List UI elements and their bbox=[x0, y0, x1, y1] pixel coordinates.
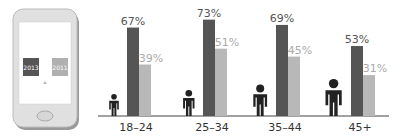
bar-2013 bbox=[203, 20, 215, 116]
value-label-2013: 69% bbox=[270, 12, 294, 25]
person-icon bbox=[253, 84, 267, 116]
bar-2011 bbox=[215, 49, 227, 116]
person-icon bbox=[183, 90, 194, 116]
value-label-2013: 53% bbox=[345, 33, 369, 46]
value-label-2013: 67% bbox=[121, 15, 145, 28]
category-group: 53%31%45+ bbox=[326, 33, 388, 134]
category-label: 35–44 bbox=[268, 121, 302, 134]
bar-2013 bbox=[276, 25, 288, 116]
value-label-2011: 51% bbox=[215, 36, 239, 49]
person-icon bbox=[326, 79, 342, 116]
category-label: 25–34 bbox=[195, 121, 229, 134]
bar-2013 bbox=[351, 46, 363, 116]
bar-chart: 67%39%18–2473%51%25–3469%45%35–4453%31%4… bbox=[0, 0, 401, 138]
value-label-2013: 73% bbox=[197, 7, 221, 20]
value-label-2011: 45% bbox=[288, 44, 312, 57]
bar-2011 bbox=[363, 75, 375, 116]
category-group: 73%51%25–34 bbox=[183, 7, 239, 134]
value-label-2011: 31% bbox=[363, 62, 387, 75]
bar-2011 bbox=[139, 65, 151, 116]
category-label: 18–24 bbox=[119, 121, 153, 134]
category-label: 45+ bbox=[348, 121, 371, 134]
bar-2013 bbox=[127, 28, 139, 116]
person-icon bbox=[109, 94, 119, 116]
bar-2011 bbox=[288, 57, 300, 116]
value-label-2011: 39% bbox=[139, 52, 163, 65]
